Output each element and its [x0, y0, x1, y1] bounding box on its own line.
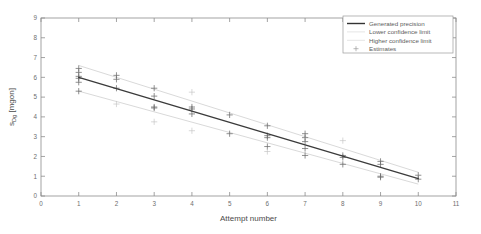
legend[interactable]: Generated precisionLower confidence limi… [343, 16, 453, 53]
estimate-marker [302, 152, 308, 158]
x-tick-label: 4 [190, 200, 194, 207]
y-tick-label: 6 [33, 74, 37, 81]
legend-label: Lower confidence limit [369, 28, 430, 35]
estimate-marker [340, 138, 346, 144]
estimate-marker [151, 85, 157, 91]
y-tick-label: 5 [33, 93, 37, 100]
y-axis-title-sub: Dg [11, 115, 17, 122]
estimate-marker [76, 88, 82, 94]
estimate-marker [151, 93, 157, 99]
x-tick-label: 8 [341, 200, 345, 207]
y-tick-label: 0 [33, 192, 37, 199]
estimate-marker [113, 76, 119, 82]
confidence-limit-line [79, 65, 419, 172]
y-tick-label: 7 [33, 54, 37, 61]
x-axis-title: Attempt number [220, 214, 277, 223]
y-tick-label: 8 [33, 34, 37, 41]
legend-label: Higher confidence limit [369, 37, 432, 44]
y-axis-title-unit: [mgon] [7, 88, 16, 115]
x-tick-label: 6 [266, 200, 270, 207]
estimate-marker [151, 105, 157, 111]
y-axis-title-text: sDg [mgon] [7, 88, 17, 126]
y-tick-label: 3 [33, 133, 37, 140]
estimate-marker [264, 148, 270, 154]
estimate-marker [340, 161, 346, 167]
legend-label: Estimates [369, 45, 396, 52]
x-tick-label: 11 [453, 200, 460, 207]
x-tick-label: 2 [115, 200, 119, 207]
y-axis-title: sDg [mgon] [7, 88, 17, 126]
estimate-marker [189, 89, 195, 95]
chart-figure: 012345678910110123456789 Attempt numbers… [0, 0, 481, 234]
y-tick-label: 2 [33, 153, 37, 160]
scatter-plot: 012345678910110123456789 Attempt numbers… [0, 0, 481, 234]
x-tick-label: 10 [415, 200, 423, 207]
legend-label: Generated precision [369, 20, 425, 27]
y-tick-label: 4 [33, 113, 37, 120]
estimate-marker [151, 119, 157, 125]
x-tick-label: 7 [303, 200, 307, 207]
y-tick-label: 1 [33, 173, 37, 180]
trend-line [79, 77, 419, 178]
estimate-marker [264, 123, 270, 129]
estimate-marker [227, 131, 233, 137]
x-tick-label: 3 [152, 200, 156, 207]
x-tick-label: 1 [77, 200, 81, 207]
confidence-limit-line [79, 91, 419, 184]
x-tick-label: 0 [39, 200, 43, 207]
y-tick-label: 9 [33, 14, 37, 21]
generated-precision-line [79, 77, 419, 178]
estimate-marker [377, 174, 383, 180]
estimate-marker [76, 79, 82, 85]
x-tick-label: 9 [379, 200, 383, 207]
x-tick-label: 5 [228, 200, 232, 207]
confidence-limit-lines [79, 65, 419, 184]
estimate-marker [227, 112, 233, 118]
estimate-marker [302, 145, 308, 151]
estimate-marker [189, 128, 195, 134]
